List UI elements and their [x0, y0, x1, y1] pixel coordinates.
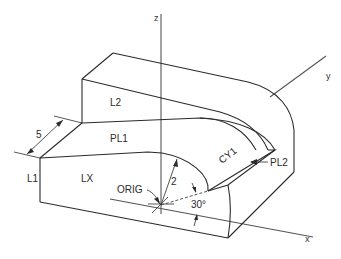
top-left-edge	[82, 53, 113, 79]
cy1-top-arc	[200, 118, 275, 150]
front-curved-edge	[228, 185, 230, 238]
pl1-left-edge	[40, 123, 82, 158]
y-axis	[270, 56, 326, 97]
orig-cross-d	[152, 197, 168, 213]
label-pl1: PL1	[110, 133, 128, 144]
dim5-ext-top	[54, 116, 82, 123]
x-axis-label: x	[305, 234, 310, 244]
angle-arrow-top	[192, 187, 196, 193]
isometric-diagram: z y x L2 PL1 L1 LX ORIG PL2 CY1 5 2 30°	[0, 0, 341, 259]
radius-arrow	[173, 159, 178, 167]
inner-arc	[162, 153, 208, 191]
dim-5-label: 5	[36, 129, 42, 140]
dim5-ext-bottom	[14, 152, 40, 158]
orig-arrow	[154, 197, 160, 204]
dim-radius-label: 2	[171, 176, 177, 187]
x-axis	[110, 199, 313, 237]
y-axis-label: y	[326, 71, 331, 81]
label-l2: L2	[110, 97, 122, 108]
label-l1: L1	[27, 173, 39, 184]
right-bottom-edge	[228, 172, 294, 238]
label-orig: ORIG	[117, 184, 143, 195]
z-axis-label: z	[154, 13, 159, 23]
label-lx: LX	[81, 173, 94, 184]
label-cy1: CY1	[216, 145, 238, 166]
label-pl2: PL2	[270, 157, 288, 168]
dim-angle-label: 30°	[191, 199, 206, 210]
lx-top-edge	[40, 152, 162, 158]
